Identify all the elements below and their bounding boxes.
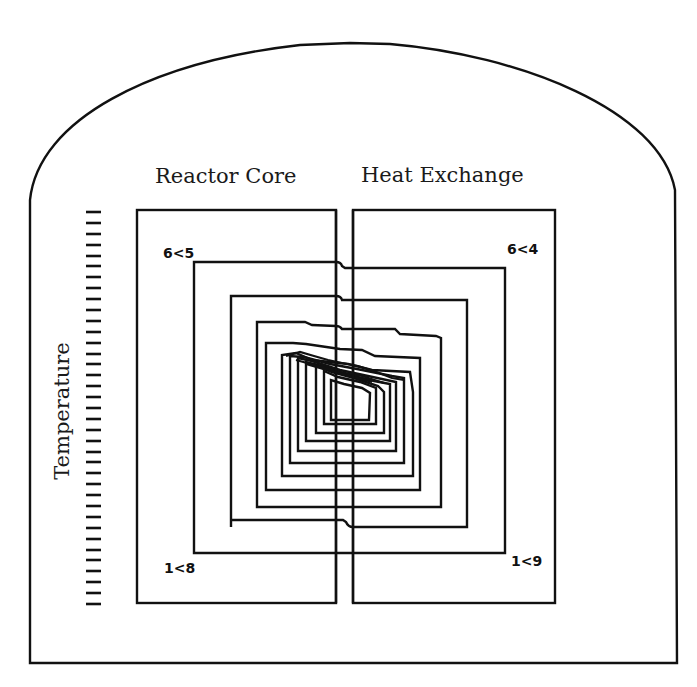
heat-exchange-title: Heat Exchange [361,165,524,186]
reactor-diagram: Reactor Core Heat Exchange Temperature 6… [0,0,697,687]
contour-7 [298,358,396,451]
reactor-core-title: Reactor Core [155,166,297,187]
corner-label-bottom-right: 1<9 [511,554,542,568]
corner-label-bottom-left: 1<8 [164,561,195,575]
temperature-scale-ticks [86,212,101,604]
diagram-canvas [0,0,697,687]
temperature-axis-label: Temperature [52,342,73,480]
contour-1 [194,262,505,553]
corner-label-top-left: 6<5 [163,246,194,260]
corner-label-top-right: 6<4 [507,242,538,256]
